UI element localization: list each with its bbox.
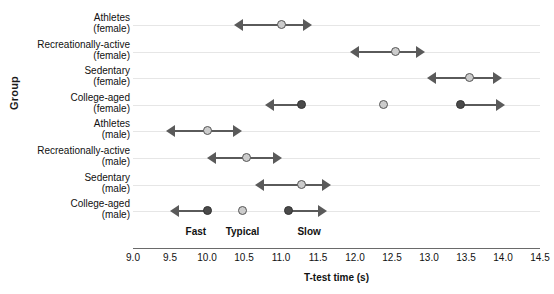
data-row: [133, 178, 540, 192]
category-label-line2: (male): [0, 129, 130, 140]
x-axis-tick-label: 12.0: [345, 252, 364, 263]
range-line: [461, 104, 498, 106]
data-point-marker: [297, 100, 306, 109]
data-row: [133, 45, 540, 59]
x-axis-tick-label: 13.0: [419, 252, 438, 263]
x-axis-tick-label: 10.5: [234, 252, 253, 263]
data-point-marker: [297, 180, 306, 189]
data-row: [133, 204, 540, 218]
data-point-marker: [284, 206, 293, 215]
arrow-right-icon: [322, 179, 331, 191]
arrow-left-icon: [166, 125, 175, 137]
category-label-line2: (female): [0, 103, 130, 114]
category-label-line2: (male): [0, 209, 130, 220]
category-label-line2: (female): [0, 23, 130, 34]
data-point-marker: [277, 20, 286, 29]
plot-area: [133, 8, 540, 236]
arrow-right-icon: [233, 125, 242, 137]
range-line: [434, 77, 495, 79]
category-label-line1: Recreationally-active: [0, 145, 130, 156]
category-label-line1: College-aged: [0, 198, 130, 209]
category-label-line1: Athletes: [0, 12, 130, 23]
x-axis-tick-label: 11.5: [309, 252, 328, 263]
arrow-left-icon: [170, 205, 179, 217]
zone-label: Slow: [297, 226, 320, 237]
x-axis-tick-label: 10.0: [197, 252, 216, 263]
category-label: College-aged(male): [0, 198, 130, 220]
zone-label: Fast: [186, 226, 207, 237]
data-row: [133, 18, 540, 32]
data-point-marker: [242, 153, 251, 162]
arrow-right-icon: [273, 152, 282, 164]
category-label-line2: (male): [0, 183, 130, 194]
range-line: [357, 51, 418, 53]
arrow-right-icon: [496, 99, 505, 111]
x-axis-line: [133, 248, 540, 249]
arrow-left-icon: [265, 99, 274, 111]
arrow-right-icon: [416, 46, 425, 58]
category-label-line2: (female): [0, 76, 130, 87]
data-point-marker: [391, 47, 400, 56]
arrow-left-icon: [255, 179, 264, 191]
x-axis-tick-label: 14.0: [493, 252, 512, 263]
range-line: [241, 24, 305, 26]
x-axis-tick-label: 14.5: [530, 252, 549, 263]
category-label: Sedentary(male): [0, 172, 130, 194]
arrow-left-icon: [427, 72, 436, 84]
category-label-line1: Recreationally-active: [0, 39, 130, 50]
category-label-line1: Sedentary: [0, 65, 130, 76]
arrow-left-icon: [350, 46, 359, 58]
x-axis-tick-label: 12.5: [382, 252, 401, 263]
data-point-marker: [203, 206, 212, 215]
x-axis-tick-label: 9.0: [126, 252, 140, 263]
x-axis-tick-label: 13.5: [456, 252, 475, 263]
zone-label: Typical: [226, 226, 260, 237]
x-axis-title: T-test time (s): [133, 272, 540, 283]
arrow-right-icon: [303, 19, 312, 31]
data-row: [133, 151, 540, 165]
data-point-marker: [456, 100, 465, 109]
data-point-marker: [238, 206, 247, 215]
category-label-line2: (male): [0, 156, 130, 167]
data-point-marker: [379, 100, 388, 109]
arrow-left-icon: [207, 152, 216, 164]
data-row: [133, 124, 540, 138]
category-label: Recreationally-active(female): [0, 39, 130, 61]
arrow-right-icon: [493, 72, 502, 84]
category-label: Sedentary(female): [0, 65, 130, 87]
data-row: [133, 71, 540, 85]
x-axis-tick-label: 11.0: [272, 252, 291, 263]
arrow-left-icon: [234, 19, 243, 31]
x-axis-tick-label: 9.5: [163, 252, 177, 263]
data-row: [133, 98, 540, 112]
category-label-line1: Athletes: [0, 118, 130, 129]
category-label: Athletes(female): [0, 12, 130, 34]
category-label-line2: (female): [0, 50, 130, 61]
category-label: Recreationally-active(male): [0, 145, 130, 167]
arrow-right-icon: [318, 205, 327, 217]
data-point-marker: [203, 126, 212, 135]
category-label: College-aged(female): [0, 92, 130, 114]
category-label: Athletes(male): [0, 118, 130, 140]
data-point-marker: [465, 73, 474, 82]
category-label-line1: Sedentary: [0, 172, 130, 183]
t-test-time-dot-plot: Group Athletes(female)Recreationally-act…: [0, 0, 554, 294]
range-line: [288, 210, 319, 212]
range-line: [262, 184, 324, 186]
category-label-line1: College-aged: [0, 92, 130, 103]
